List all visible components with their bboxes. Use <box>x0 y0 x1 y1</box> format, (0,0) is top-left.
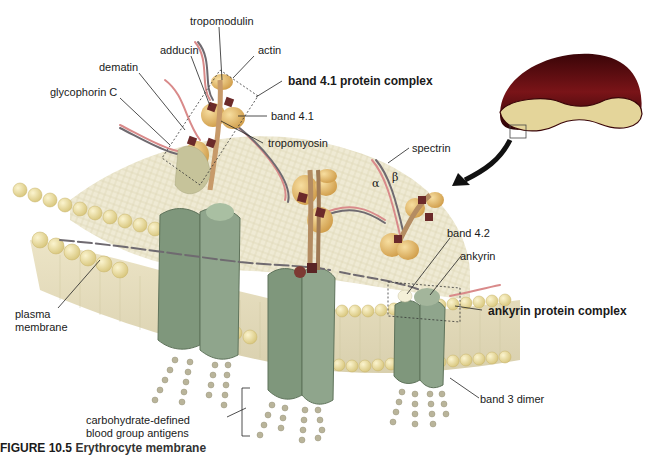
label-adducin: adducin <box>160 44 199 56</box>
label-dematin: dematin <box>99 61 138 73</box>
label-tropomyosin: tropomyosin <box>268 137 328 149</box>
band3-middle <box>268 268 335 404</box>
figure-caption: FIGURE 10.5 Erythrocyte membrane <box>0 441 206 455</box>
label-actin: actin <box>258 44 281 56</box>
label-band3-dimer: band 3 dimer <box>480 393 544 405</box>
band3-right <box>394 300 445 388</box>
label-glycophorin-c: glycophorin C <box>50 86 117 98</box>
label-carb-antigens-line2: blood group antigens <box>86 427 189 439</box>
label-alpha: α <box>372 178 379 190</box>
label-plasma-membrane-line1: plasma <box>15 308 50 320</box>
label-band41-complex: band 4.1 protein complex <box>288 75 433 87</box>
label-ankyrin-complex: ankyrin protein complex <box>488 305 627 317</box>
label-band42: band 4.2 <box>447 227 490 239</box>
band3-left <box>158 203 240 359</box>
figure-title: Erythrocyte membrane <box>75 441 206 455</box>
label-beta: β <box>392 172 398 184</box>
label-spectrin: spectrin <box>412 142 451 154</box>
figure-number: FIGURE 10.5 <box>0 441 72 455</box>
label-plasma-membrane-line2: membrane <box>15 321 68 333</box>
label-tropomodulin: tropomodulin <box>190 15 254 27</box>
label-carb-antigens-line1: carbohydrate-defined <box>86 414 190 426</box>
label-band41: band 4.1 <box>271 110 314 122</box>
zoom-arrow <box>452 140 510 186</box>
red-blood-cell-icon <box>500 54 642 138</box>
label-ankyrin: ankyrin <box>460 250 495 262</box>
